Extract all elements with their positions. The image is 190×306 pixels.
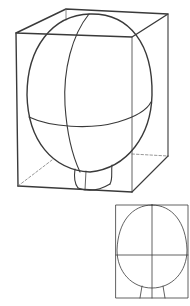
- head-center-meridian: [65, 14, 89, 172]
- front-view-inset: [116, 205, 188, 298]
- box-top-face: [16, 9, 168, 37]
- box-hidden-bottom-left-edge: [18, 160, 52, 186]
- perspective-box: [16, 9, 168, 192]
- neck-center: [85, 171, 86, 190]
- neck-right: [110, 165, 112, 184]
- neck-bottom: [78, 184, 110, 190]
- box-right-bottom-edge: [132, 156, 168, 192]
- inset-neck-left: [140, 286, 142, 298]
- head-ovoid: [27, 14, 152, 172]
- inset-neck-right: [163, 286, 165, 298]
- head-construction-diagram: [0, 0, 190, 306]
- box-front-left-edge: [16, 33, 18, 186]
- head-horizontal-band: [29, 102, 151, 127]
- neck-left: [74, 169, 78, 188]
- head-outline: [27, 14, 152, 172]
- box-front-bottom-edge: [18, 186, 132, 192]
- box-hidden-bottom-back-edge: [132, 154, 168, 156]
